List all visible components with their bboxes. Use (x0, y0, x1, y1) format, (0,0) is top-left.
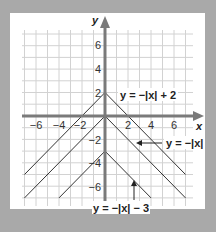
x-tick: −2 (74, 119, 87, 131)
x-tick: −4 (53, 119, 66, 131)
axes (22, 16, 204, 206)
y-tick: 6 (95, 39, 101, 51)
label-neg-abs-x: y = −|x| (166, 137, 203, 149)
y-tick: −4 (88, 157, 101, 169)
y-axis-arrow-icon (100, 16, 110, 28)
x-tick: 6 (171, 119, 177, 131)
label-neg-abs-x-minus-3: y = −|x| − 3 (93, 202, 149, 214)
x-tick: 4 (148, 119, 154, 131)
graph-canvas: x y −6 −4 −2 2 4 6 6 4 2 −2 −4 −6 y = −|… (0, 0, 216, 232)
y-tick: 4 (95, 63, 101, 75)
y-axis-label: y (91, 14, 99, 26)
y-tick: 2 (95, 87, 101, 99)
y-tick: −2 (88, 134, 101, 146)
x-tick: 2 (125, 119, 131, 131)
label-neg-abs-x-plus-2: y = −|x| + 2 (120, 89, 176, 101)
x-tick-labels: −6 −4 −2 2 4 6 (30, 119, 177, 131)
y-tick: −6 (88, 181, 101, 193)
x-tick: −6 (30, 119, 43, 131)
x-axis-label: x (195, 120, 203, 132)
